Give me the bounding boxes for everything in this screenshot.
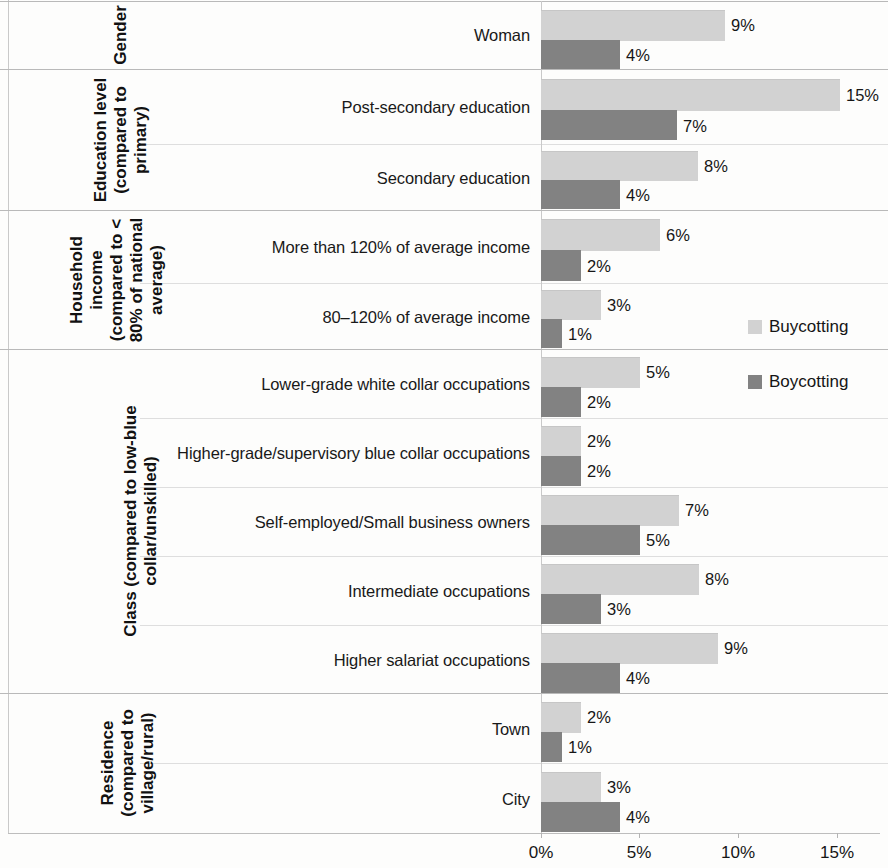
bar-boycotting <box>541 387 581 417</box>
bar-buycotting <box>541 357 640 388</box>
bar-buycotting <box>541 79 840 111</box>
bar-value-buycotting: 2% <box>587 708 611 727</box>
bar-buycotting <box>541 10 725 41</box>
bar-boycotting <box>541 594 601 624</box>
bar-value-boycotting: 2% <box>587 462 611 481</box>
bar-value-boycotting: 4% <box>626 669 650 688</box>
row-label: Town <box>492 719 530 738</box>
row-label: Intermediate occupations <box>348 582 530 601</box>
row-label: More than 120% of average income <box>272 238 530 257</box>
bar-boycotting <box>541 802 620 832</box>
bar-value-buycotting: 5% <box>646 363 670 382</box>
x-axis-tick-10 <box>738 833 739 838</box>
bar-buycotting <box>541 702 581 733</box>
legend-label-boycotting: Boycotting <box>769 372 848 392</box>
bar-value-buycotting: 8% <box>705 570 729 589</box>
x-axis-label-10: 10% <box>721 843 755 863</box>
bar-boycotting <box>541 456 581 486</box>
bar-boycotting <box>541 110 677 140</box>
bar-value-buycotting: 9% <box>731 16 755 35</box>
x-axis-tick-15 <box>837 833 838 838</box>
bar-buycotting <box>541 290 601 320</box>
row-label: 80–120% of average income <box>322 307 530 326</box>
bar-boycotting <box>541 525 640 555</box>
bar-value-buycotting: 6% <box>666 226 690 245</box>
bar-value-boycotting: 7% <box>683 117 707 136</box>
row-label: Post-secondary education <box>342 98 530 117</box>
bar-buycotting <box>541 426 581 457</box>
bar-value-boycotting: 1% <box>568 738 592 757</box>
bar-boycotting <box>541 663 620 693</box>
bar-value-boycotting: 5% <box>646 531 670 550</box>
bar-value-buycotting: 2% <box>587 432 611 451</box>
bar-boycotting <box>541 180 620 209</box>
row-label: Lower-grade white collar occupations <box>261 375 530 394</box>
bar-value-buycotting: 3% <box>607 778 631 797</box>
row-label: Higher-grade/supervisory blue collar occ… <box>177 444 530 463</box>
bar-value-buycotting: 8% <box>704 157 728 176</box>
legend-item-boycotting: Boycotting <box>748 372 848 392</box>
x-axis-label-0: 0% <box>529 843 554 863</box>
bar-value-buycotting: 9% <box>724 639 748 658</box>
bar-buycotting <box>541 633 718 664</box>
legend-item-buycotting: Buycotting <box>748 317 848 337</box>
bar-value-boycotting: 3% <box>607 600 631 619</box>
row-label: Secondary education <box>377 168 530 187</box>
bar-value-boycotting: 2% <box>587 393 611 412</box>
legend-swatch-boycotting-icon <box>748 375 762 389</box>
legend-swatch-buycotting-icon <box>748 320 762 334</box>
bar-buycotting <box>541 219 660 251</box>
bar-buycotting <box>541 495 679 526</box>
plot-area: Woman 9% 4% Post-secondary education 15%… <box>0 0 888 868</box>
legend-label-buycotting: Buycotting <box>769 317 848 337</box>
bar-value-boycotting: 4% <box>626 46 650 65</box>
bar-value-boycotting: 4% <box>626 808 650 827</box>
bar-value-boycotting: 2% <box>587 257 611 276</box>
x-axis-label-15: 15% <box>820 843 854 863</box>
x-axis-tick-5 <box>639 833 640 838</box>
bar-value-buycotting: 3% <box>607 296 631 315</box>
group-label-class: Class (compared to low-blue collar/unski… <box>73 321 209 721</box>
bar-value-boycotting: 4% <box>626 186 650 205</box>
bar-boycotting <box>541 250 581 281</box>
row-label: Higher salariat occupations <box>334 650 530 669</box>
bar-buycotting <box>541 772 601 803</box>
bar-value-buycotting: 15% <box>846 86 879 105</box>
row-label: City <box>502 789 530 808</box>
bar-buycotting <box>541 151 698 181</box>
bar-boycotting <box>541 319 562 348</box>
bar-buycotting <box>541 564 699 595</box>
x-axis-label-5: 5% <box>627 843 652 863</box>
bar-boycotting <box>541 732 562 762</box>
bar-value-buycotting: 7% <box>685 501 709 520</box>
row-label: Self-employed/Small business owners <box>255 513 530 532</box>
row-label: Woman <box>474 26 530 45</box>
x-axis-tick-0 <box>541 833 542 838</box>
x-axis-line <box>8 833 880 834</box>
bar-chart: Woman 9% 4% Post-secondary education 15%… <box>0 0 888 868</box>
group-label-residence: Residence (compared to village/rural) <box>81 668 175 858</box>
bar-value-boycotting: 1% <box>568 325 592 344</box>
bar-boycotting <box>541 40 620 69</box>
